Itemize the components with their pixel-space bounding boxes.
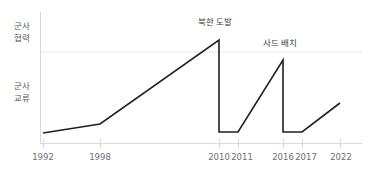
chart-container: 군사 협력 군사 교류 북한 도발 사드 배치 1992 1998 2010 2… [0,0,368,179]
line-chart: 군사 협력 군사 교류 북한 도발 사드 배치 1992 1998 2010 2… [0,0,368,179]
x-tick-label-1992: 1992 [32,152,54,162]
x-tick-label-2017: 2017 [295,152,317,162]
annotation-thaad-deployment: 사드 배치 [263,38,298,48]
y-label-cooperation-line1: 군사 [14,21,30,31]
annotation-north-korea-provocation: 북한 도발 [198,17,233,27]
x-tick-label-2011: 2011 [231,152,253,162]
x-tick-label-1998: 1998 [89,152,111,162]
x-tick-label-2016: 2016 [272,152,294,162]
y-label-exchange-line2: 교류 [14,93,30,103]
y-axis-label-exchange: 군사 교류 [14,81,30,103]
x-tick-label-2010: 2010 [208,152,230,162]
y-label-exchange-line1: 군사 [14,81,30,91]
y-axis-label-cooperation: 군사 협력 [14,21,30,43]
y-label-cooperation-line2: 협력 [14,33,30,43]
data-series-line [43,40,340,133]
x-tick-label-2022: 2022 [330,152,352,162]
